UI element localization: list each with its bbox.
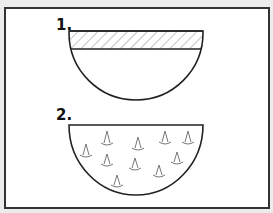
figure-2-bowl: [69, 125, 203, 195]
figure-1-bowl: [69, 31, 203, 100]
hatched-band: [69, 31, 203, 49]
diagram-drawing: [0, 0, 273, 213]
